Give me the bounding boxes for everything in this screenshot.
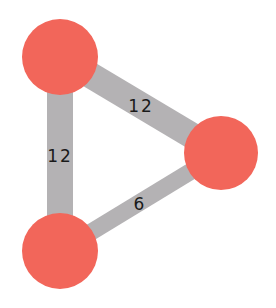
node-b[interactable] — [184, 116, 258, 190]
node-a[interactable] — [22, 19, 98, 95]
graph-diagram: 12 12 6 — [0, 0, 276, 308]
edge-b-c-weight-label: 6 — [134, 194, 147, 214]
node-c[interactable] — [22, 213, 98, 289]
edge-a-c-weight-label: 12 — [47, 146, 73, 166]
edge-a-b-weight-label: 12 — [128, 96, 154, 116]
